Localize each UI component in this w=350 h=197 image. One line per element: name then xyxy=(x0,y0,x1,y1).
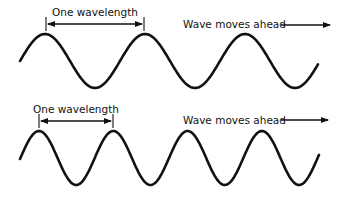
direction-label: Wave moves ahead xyxy=(183,114,286,126)
wavelength-measure-arrow xyxy=(46,17,144,31)
direction-label: Wave moves ahead xyxy=(183,18,286,30)
sine-wave-short xyxy=(20,131,319,185)
wavelength-label: One wavelength xyxy=(33,103,119,115)
panel-short-wavelength: One wavelength Wave moves ahead xyxy=(20,103,328,185)
panel-long-wavelength: One wavelength Wave moves ahead xyxy=(20,6,330,88)
wavelength-label: One wavelength xyxy=(52,6,138,18)
wavelength-diagram: One wavelength Wave moves ahead One wave… xyxy=(0,0,350,197)
wavelength-measure-arrow xyxy=(39,114,113,128)
sine-wave-long xyxy=(20,34,318,88)
